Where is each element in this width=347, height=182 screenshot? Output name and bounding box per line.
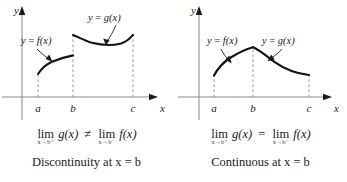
limit-statement-left: lim x→b⁺ g(x) ≠ lim x→b⁻ f(x) (36, 128, 136, 141)
curve-label-f-right: y = f(x) (206, 35, 238, 47)
x-axis-left (2, 94, 158, 101)
tick-label-b: b (250, 102, 256, 114)
curve-label-g-left: y = g(x) (87, 12, 121, 24)
plot-discontinuity: y x a b c y = g(x) (0, 2, 173, 124)
tick-label-c: c (131, 102, 136, 114)
tick-label-c: c (307, 102, 312, 114)
curve-label-f-left: y = f(x) (20, 35, 52, 47)
limit-relation-left: ≠ (81, 127, 94, 141)
tick-label-a: a (211, 102, 217, 114)
caption-block-right: lim x→b⁺ g(x) = lim x→b⁻ f(x) Continuous… (174, 124, 347, 169)
curve-g-right (253, 47, 309, 75)
limit-function-g-right: g(x) (232, 127, 252, 141)
curve-f-right (214, 47, 253, 75)
limit-operator-g-right: lim x→b⁺ (210, 128, 229, 141)
caption-block-left: lim x→b⁺ g(x) ≠ lim x→b⁻ f(x) Discontinu… (0, 124, 173, 169)
x-axis-label: x (159, 102, 165, 114)
limit-statement-right: lim x→b⁺ g(x) = lim x→b⁻ f(x) (210, 128, 310, 141)
limit-function-f-left: f(x) (119, 127, 136, 141)
limit-function-f-right: f(x) (293, 127, 310, 141)
calculus-figure: y x a b c y = g(x) (0, 0, 347, 182)
tick-label-b: b (70, 102, 76, 114)
curve-g-left (73, 35, 133, 45)
caption-left: Discontinuity at x = b (0, 156, 173, 169)
lim-subscript-g-left: x→b⁺ (38, 139, 54, 145)
leader-arrowhead-f-left (46, 54, 53, 62)
curve-f-left (38, 55, 73, 74)
limit-function-g-left: g(x) (58, 127, 78, 141)
plot-continuous: y x a b c y = f(x) (174, 2, 347, 124)
y-axis-left (19, 6, 26, 120)
y-axis-label: y (13, 4, 19, 16)
panel-discontinuity: y x a b c y = g(x) (0, 0, 173, 182)
x-axis-label: x (333, 102, 339, 114)
leader-g-left (107, 25, 116, 42)
limit-relation-right: = (255, 127, 268, 141)
tick-label-a: a (35, 102, 41, 114)
limit-operator-f-left: lim x→b⁻ (97, 128, 116, 141)
y-axis-label: y (190, 4, 196, 16)
caption-right: Continuous at x = b (174, 156, 347, 169)
panel-continuous: y x a b c y = f(x) (174, 0, 347, 182)
limit-operator-f-right: lim x→b⁻ (272, 128, 291, 141)
limit-operator-g-left: lim x→b⁺ (36, 128, 55, 141)
lim-subscript-f-left: x→b⁻ (99, 139, 115, 145)
curve-label-g-right: y = g(x) (261, 35, 295, 47)
lim-subscript-f-right: x→b⁻ (273, 139, 289, 145)
y-axis-right (196, 6, 203, 120)
lim-subscript-g-right: x→b⁺ (211, 139, 227, 145)
